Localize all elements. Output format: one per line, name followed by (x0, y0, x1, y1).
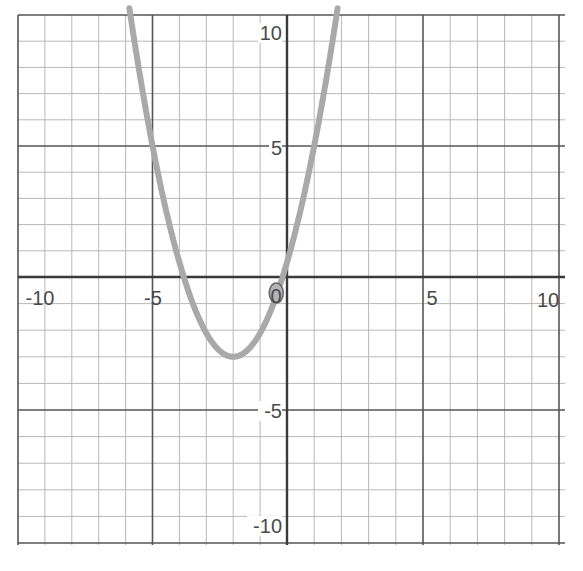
major-grid (18, 15, 565, 545)
axes (18, 15, 565, 545)
graph-canvas: -10-50510105-5-10 (0, 0, 583, 571)
x-tick-label: 10 (537, 289, 559, 311)
x-tick-label: -10 (26, 287, 55, 309)
x-tick-label: -5 (144, 287, 162, 309)
y-tick-label: -5 (264, 400, 282, 422)
tick-labels: -10-50510105-5-10 (26, 22, 560, 537)
y-tick-label: -10 (253, 515, 282, 537)
x-tick-label: 0 (270, 285, 281, 307)
minor-grid (18, 15, 565, 545)
y-tick-label: 10 (260, 22, 282, 44)
x-tick-label: 5 (426, 287, 437, 309)
y-tick-label: 5 (271, 137, 282, 159)
